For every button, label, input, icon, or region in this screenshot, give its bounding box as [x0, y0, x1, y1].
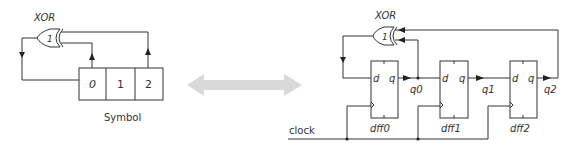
svg-text:q: q	[459, 73, 465, 84]
q0-arrow-icon	[403, 75, 411, 81]
svg-text:d: d	[373, 73, 380, 84]
left-xor-label: XOR	[33, 12, 55, 23]
clock-junction-0	[345, 137, 348, 140]
right-xor-gate-icon: 1	[373, 27, 397, 45]
dff2-label: dff2	[510, 123, 530, 134]
q0-input-arrow-icon	[398, 37, 405, 43]
dff2-block: d q dff2	[510, 61, 537, 134]
register-cell-0: 0	[89, 78, 96, 91]
clock-wire	[288, 106, 510, 139]
right-circuit-diagram: XOR 1 d q dff0 q0	[288, 10, 558, 141]
diagram-canvas: XOR 1 0 1 2 Symbol XOR	[0, 0, 577, 149]
dff0-label: dff0	[370, 123, 390, 134]
q0-label: q0	[410, 84, 423, 95]
svg-text:d: d	[442, 73, 449, 84]
left-up-arrow-icon-cell2	[145, 48, 151, 55]
q2-label: q2	[544, 84, 557, 95]
register-cell-1: 1	[117, 78, 124, 91]
symbol-caption: Symbol	[104, 112, 141, 123]
down-arrow-icon	[340, 57, 346, 63]
right-xor-label: XOR	[374, 10, 396, 21]
svg-text:q: q	[528, 73, 534, 84]
clock-dff1-wire	[418, 106, 440, 139]
xor-to-dff0-wire	[343, 36, 373, 78]
dff0-block: d q dff0	[370, 61, 398, 134]
left-up-arrow-icon-cell0	[89, 53, 95, 60]
clock-dff0-wire	[347, 106, 371, 139]
shift-register-symbol: 0 1 2	[79, 68, 163, 100]
q1-arrow-icon	[476, 75, 484, 81]
svg-text:1: 1	[47, 34, 53, 44]
q2-arrow-icon	[543, 75, 551, 81]
svg-text:q: q	[389, 73, 395, 84]
register-cell-2: 2	[145, 78, 152, 91]
clock-label: clock	[289, 125, 315, 136]
double-arrow-icon	[187, 74, 302, 96]
clock-junction-1	[416, 137, 419, 140]
left-input-wire-cell2	[61, 32, 148, 68]
svg-text:1: 1	[382, 32, 388, 42]
q2-input-arrow-icon	[398, 27, 405, 33]
dff1-label: dff1	[441, 123, 461, 134]
svg-text:d: d	[512, 73, 519, 84]
q0-junction	[416, 76, 419, 79]
left-input-wire-cell0	[61, 43, 92, 68]
left-xor-gate-icon: 1	[37, 29, 63, 47]
dff1-block: d q dff1	[440, 61, 468, 134]
left-symbol-diagram: XOR 1 0 1 2 Symbol	[19, 12, 163, 123]
q1-label: q1	[482, 84, 495, 95]
left-down-arrow-icon	[19, 52, 25, 58]
